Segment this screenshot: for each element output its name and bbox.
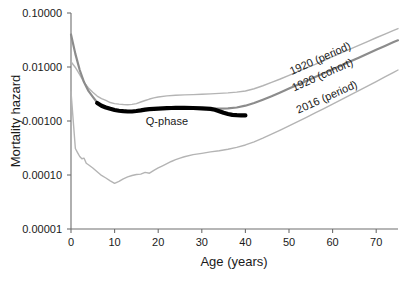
series-inline-labels: 1920 (period)1920 (cohort)2016 (period) xyxy=(288,39,359,115)
y-tick-label: 0.00100 xyxy=(22,115,62,127)
x-tick-label: 30 xyxy=(196,236,208,248)
chart-plot-area: 0.100000.010000.001000.000100.00001 0102… xyxy=(0,0,410,284)
x-tick-label: 40 xyxy=(239,236,251,248)
y-axis-title: Mortality hazard xyxy=(8,75,23,167)
q-phase-annotation: Q-phase xyxy=(146,115,188,127)
x-axis-tick-labels: 010203040506070 xyxy=(68,236,382,248)
mortality-hazard-chart-figure: 0.100000.010000.001000.000100.00001 0102… xyxy=(0,0,410,284)
y-tick-label: 0.00001 xyxy=(22,223,62,235)
x-tick-label: 60 xyxy=(326,236,338,248)
y-tick-label: 0.10000 xyxy=(22,7,62,19)
x-tick-label: 0 xyxy=(68,236,74,248)
y-tick-label: 0.00010 xyxy=(22,169,62,181)
x-axis-tick-marks xyxy=(71,229,376,233)
x-axis-title: Age (years) xyxy=(200,254,267,269)
y-axis-tick-labels: 0.100000.010000.001000.000100.00001 xyxy=(22,7,62,235)
x-tick-label: 20 xyxy=(152,236,164,248)
y-axis-tick-marks xyxy=(67,13,71,229)
y-tick-label: 0.01000 xyxy=(22,61,62,73)
x-tick-label: 50 xyxy=(283,236,295,248)
chart-annotations: Q-phase xyxy=(146,115,188,127)
x-tick-label: 70 xyxy=(370,236,382,248)
x-tick-label: 10 xyxy=(108,236,120,248)
